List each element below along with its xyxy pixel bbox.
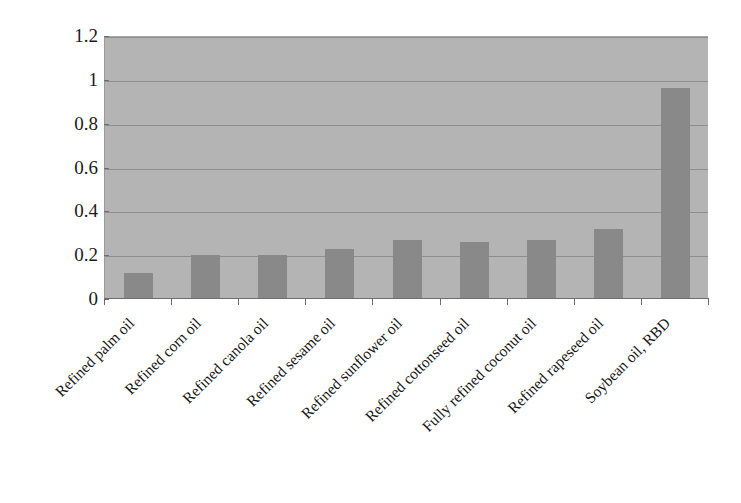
bars-group — [105, 37, 708, 299]
x-tick-mark — [708, 299, 709, 305]
bar — [191, 255, 220, 299]
x-axis-label: Refined sunflower oil — [110, 314, 406, 503]
plot-area — [104, 36, 708, 299]
y-tick-label: 0.2 — [8, 245, 98, 264]
y-axis: 00.20.40.60.811.2 — [0, 0, 98, 299]
x-axis-label: Refined cottonseed oil — [178, 314, 474, 503]
y-tick-mark — [104, 211, 109, 212]
bar — [124, 273, 153, 299]
y-tick-mark — [104, 124, 109, 125]
y-tick-mark — [104, 255, 109, 256]
x-axis-line — [104, 298, 709, 299]
bar — [594, 229, 623, 299]
x-tick-mark — [171, 299, 172, 305]
y-tick-label: 0.6 — [8, 158, 98, 177]
bar — [527, 240, 556, 299]
x-tick-mark — [440, 299, 441, 305]
y-tick-label: 1 — [8, 70, 98, 89]
x-tick-mark — [238, 299, 239, 305]
x-axis-label: Soybean oil, RBD — [379, 314, 675, 503]
x-tick-mark — [372, 299, 373, 305]
bar — [393, 240, 422, 299]
x-tick-mark — [507, 299, 508, 305]
x-tick-mark — [574, 299, 575, 305]
y-tick-mark — [104, 80, 109, 81]
x-tick-mark — [641, 299, 642, 305]
x-axis-label: Fully refined coconut oil — [245, 314, 541, 503]
bar — [258, 255, 287, 299]
y-tick-label: 0 — [8, 289, 98, 308]
bar — [661, 88, 690, 299]
x-axis-label: Refined rapeseed oil — [312, 314, 608, 503]
x-tick-mark — [305, 299, 306, 305]
bar — [460, 242, 489, 299]
bar-chart: 00.20.40.60.811.2 Refined palm oilRefine… — [0, 0, 741, 503]
y-tick-label: 0.4 — [8, 201, 98, 220]
x-tick-mark — [104, 299, 105, 305]
y-tick-label: 1.2 — [8, 26, 98, 45]
y-tick-mark — [104, 168, 109, 169]
bar — [325, 249, 354, 299]
x-axis-label: Refined sesame oil — [43, 314, 339, 503]
y-tick-mark — [104, 36, 109, 37]
y-tick-label: 0.8 — [8, 114, 98, 133]
